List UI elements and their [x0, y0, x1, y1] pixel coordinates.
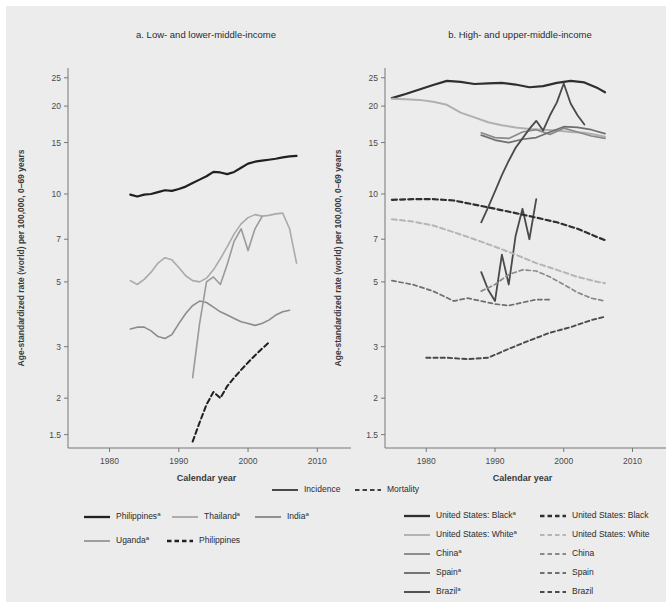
series-line — [481, 83, 584, 222]
y-tick-label: 3 — [373, 342, 378, 352]
panel-title: b. High- and upper-middle-income — [448, 29, 592, 40]
x-axis-label: Calendar year — [177, 473, 237, 483]
series-line — [130, 156, 296, 197]
legend-right-9-label: Brazil — [572, 586, 593, 596]
series-line — [392, 281, 550, 306]
legend-right-8-label: Brazila — [436, 586, 461, 597]
chart-svg: a. Low- and lower-middle-incomeAge-stand… — [0, 0, 672, 614]
legend-right-2-label: United States: Whitea — [436, 529, 517, 540]
figure-container: a. Low- and lower-middle-incomeAge-stand… — [0, 0, 672, 614]
legend-left-2-superscript: a — [305, 511, 309, 517]
y-axis-label: Age-standardized rate (world) per 100,00… — [16, 149, 26, 366]
axis-lines — [68, 68, 351, 448]
legend-left-2-label: Indiaa — [287, 511, 309, 522]
legend-left-0-label: Philippinesa — [116, 511, 161, 522]
y-tick-label: 5 — [373, 277, 378, 287]
y-tick-label: 25 — [369, 73, 379, 83]
legend-right-7-label: Spain — [572, 567, 594, 577]
legend-left-3-superscript: a — [146, 535, 150, 541]
panel-a: a. Low- and lower-middle-incomeAge-stand… — [16, 29, 351, 483]
legend-left-4-label: Philippines — [199, 535, 240, 545]
series-line — [130, 213, 296, 284]
legend-left-3-label: Ugandaa — [116, 535, 150, 546]
panel-b: b. High- and upper-middle-incomeAge-stan… — [333, 29, 666, 483]
legend-style-mortality-label: Mortality — [387, 484, 420, 494]
x-tick-label: 1980 — [417, 456, 436, 466]
x-axis-label: Calendar year — [493, 473, 553, 483]
legend-area: IncidenceMortalityPhilippinesaThailandaI… — [84, 484, 650, 596]
y-tick-label: 15 — [52, 138, 62, 148]
y-tick-label: 7 — [56, 234, 61, 244]
legend-right-0-label: United States: Blacka — [436, 510, 517, 521]
legend-right-4-superscript: a — [458, 548, 462, 554]
legend-style-incidence-label: Incidence — [304, 484, 341, 494]
legend-right-6-superscript: a — [458, 567, 462, 573]
series-line — [392, 81, 605, 98]
legend-right-1-label: United States: Black — [572, 510, 649, 520]
x-tick-label: 1990 — [169, 456, 188, 466]
y-tick-label: 1.5 — [366, 430, 378, 440]
y-tick-label: 1.5 — [49, 430, 61, 440]
legend-right-6-label: Spaina — [436, 567, 462, 578]
panel-title: a. Low- and lower-middle-income — [136, 29, 276, 40]
x-tick-label: 2010 — [623, 456, 642, 466]
x-tick-label: 1980 — [100, 456, 119, 466]
series-line — [481, 199, 536, 301]
y-tick-label: 15 — [369, 138, 379, 148]
y-tick-label: 2 — [373, 393, 378, 403]
series-line — [426, 317, 605, 359]
x-tick-label: 2000 — [239, 456, 258, 466]
y-tick-label: 10 — [52, 189, 62, 199]
x-tick-label: 2010 — [308, 456, 327, 466]
x-tick-label: 2000 — [554, 456, 573, 466]
legend-left-1-label: Thailanda — [204, 511, 241, 522]
y-tick-label: 25 — [52, 73, 62, 83]
y-axis-label: Age-standardized rate (world) per 100,00… — [333, 149, 343, 366]
y-tick-label: 7 — [373, 234, 378, 244]
legend-left-1-superscript: a — [237, 511, 241, 517]
legend-right-8-superscript: a — [457, 586, 461, 592]
series-line — [193, 217, 262, 378]
y-tick-label: 20 — [369, 101, 379, 111]
legend-left-0-superscript: a — [157, 511, 161, 517]
y-tick-label: 10 — [369, 189, 379, 199]
series-line — [130, 301, 289, 338]
series-line — [193, 343, 269, 442]
x-tick-label: 1990 — [486, 456, 505, 466]
legend-right-4-label: Chinaa — [436, 548, 462, 559]
legend-right-3-label: United States: White — [572, 529, 650, 539]
legend-right-2-superscript: a — [513, 529, 517, 535]
y-tick-label: 2 — [56, 393, 61, 403]
legend-right-0-superscript: a — [513, 510, 517, 516]
y-tick-label: 20 — [52, 101, 62, 111]
series-line — [392, 199, 605, 240]
y-tick-label: 3 — [56, 342, 61, 352]
y-tick-label: 5 — [56, 277, 61, 287]
legend-right-5-label: China — [572, 548, 594, 558]
